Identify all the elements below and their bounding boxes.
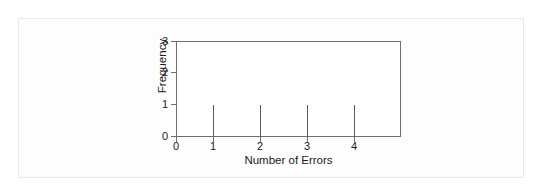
y-tick-label-0: 0	[152, 131, 168, 142]
y-tick-mark-1	[171, 104, 176, 105]
x-axis-title: Number of Errors	[176, 154, 401, 166]
data-spike-x3	[307, 105, 308, 137]
plot-area	[176, 41, 401, 137]
x-tick-label-3: 3	[298, 141, 316, 152]
y-tick-mark-3	[171, 41, 176, 42]
x-tick-label-0: 0	[167, 141, 185, 152]
frequency-histogram-figure: 0 1 2 3 0 1 2 3 4 Number of Errors Frequ…	[0, 0, 541, 196]
y-axis-title: Frequency	[156, 36, 168, 96]
y-tick-mark-2	[171, 72, 176, 73]
x-tick-label-2: 2	[251, 141, 269, 152]
y-tick-label-1: 1	[152, 99, 168, 110]
data-spike-x4	[354, 105, 355, 137]
x-tick-label-4: 4	[345, 141, 363, 152]
data-spike-x1	[213, 105, 214, 137]
data-spike-x2	[260, 105, 261, 137]
x-tick-label-1: 1	[204, 141, 222, 152]
screenshot-root: 0 1 2 3 0 1 2 3 4 Number of Errors Frequ…	[0, 0, 541, 196]
